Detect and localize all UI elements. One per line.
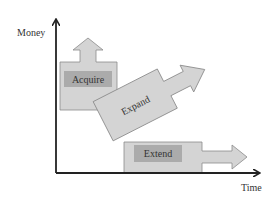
growth-strategy-diagram: Acquire Expand Extend Money Time (0, 0, 277, 200)
y-axis-label: Money (17, 27, 45, 38)
extend-label: Extend (144, 148, 172, 159)
acquire-label: Acquire (72, 74, 105, 85)
extend-stage: Extend (124, 142, 247, 173)
x-axis-label: Time (241, 182, 262, 193)
